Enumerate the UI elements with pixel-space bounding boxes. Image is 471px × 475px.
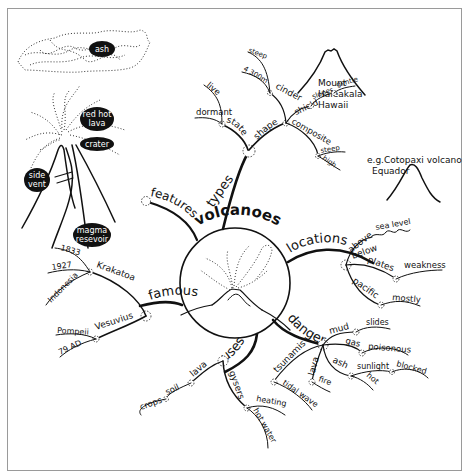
- dormant-line: [195, 118, 222, 124]
- cotopaxi-note-2: Equador: [372, 166, 410, 176]
- types-dormant-label[interactable]: dormant: [196, 107, 233, 117]
- types-live-label[interactable]: live: [205, 80, 223, 97]
- ash-cloud-drawing: [18, 30, 150, 72]
- haleakala-note-3: Hawaii: [318, 100, 348, 110]
- uses-hot-water-label[interactable]: hot water: [251, 407, 278, 445]
- famous-vesuvius-label[interactable]: Vesuvius: [94, 310, 135, 332]
- side-vent-label-1: side: [29, 171, 45, 180]
- ash-label: ash: [95, 45, 109, 54]
- crater-label: crater: [85, 140, 110, 149]
- weakness-line: [396, 270, 442, 279]
- dangers-gas-label[interactable]: gas: [344, 335, 362, 349]
- famous-krakatoa-label[interactable]: Krakatoa: [95, 259, 136, 282]
- dangers-blocked-label[interactable]: blocked: [395, 359, 427, 376]
- types-cinder-label[interactable]: cinder: [274, 81, 304, 103]
- dangers-sunlight-label[interactable]: sunlight: [357, 362, 389, 371]
- node-features[interactable]: [142, 197, 151, 206]
- side-vent-label-2: vent: [28, 180, 46, 189]
- types-cinder-height-label[interactable]: 4 300m: [242, 65, 269, 85]
- dangers-poisonous-label[interactable]: poisonous: [368, 341, 412, 355]
- uses-crops-label[interactable]: crops: [138, 394, 164, 411]
- locations-weakness-label[interactable]: weakness: [404, 260, 446, 270]
- node-types[interactable]: [243, 145, 255, 157]
- branch-famous-line: [140, 302, 182, 306]
- red-hot-lava-label-1: red hot: [83, 110, 112, 119]
- magma-reservoir-label-2: resevoir: [76, 235, 109, 244]
- famous-indonesia-label[interactable]: Indonesia: [46, 271, 80, 305]
- dangers-lava-label[interactable]: lava: [306, 356, 321, 377]
- mind-map: ash red hot lava crater side vent magma …: [0, 0, 471, 475]
- central-title: volcanoes: [191, 201, 284, 230]
- cotopaxi-note-1: e.g.Cotopaxi volcano: [367, 155, 462, 165]
- types-composite-steep-label[interactable]: steep: [320, 144, 341, 155]
- uses-gysers-label[interactable]: gysers: [227, 369, 247, 401]
- dangers-fire-label[interactable]: fire: [317, 374, 332, 387]
- famous-79ad-label[interactable]: 79 AD: [57, 338, 83, 356]
- famous-1833-label[interactable]: 1833: [59, 243, 81, 257]
- red-hot-lava-label-2: lava: [89, 119, 106, 128]
- krakatoa-line: [91, 272, 146, 316]
- locations-mostly-label[interactable]: mostly: [392, 292, 421, 304]
- uses-soil-label[interactable]: soil: [164, 382, 181, 397]
- dangers-slides-label[interactable]: slides: [366, 318, 389, 327]
- magma-reservoir-label-1: magma: [77, 226, 108, 235]
- dangers-tsunamis-label[interactable]: tsunamis: [271, 338, 307, 374]
- famous-pompeii-label[interactable]: Pompeii: [57, 326, 89, 337]
- locations-sea-level-label[interactable]: sea level: [375, 217, 412, 232]
- types-shape-label[interactable]: shape: [251, 116, 279, 141]
- slides-line: [356, 327, 390, 332]
- uses-lava-label[interactable]: lava: [188, 359, 209, 379]
